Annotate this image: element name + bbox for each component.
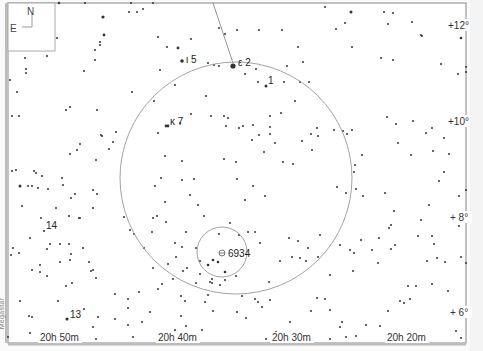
star bbox=[114, 293, 116, 295]
star bbox=[201, 329, 203, 331]
star bbox=[316, 127, 318, 129]
star bbox=[69, 259, 71, 261]
star bbox=[245, 317, 247, 319]
star bbox=[47, 188, 49, 190]
star bbox=[317, 256, 319, 258]
star bbox=[129, 229, 131, 231]
star bbox=[130, 2, 132, 4]
star bbox=[355, 335, 357, 337]
star bbox=[289, 321, 291, 323]
star bbox=[360, 239, 362, 241]
star bbox=[335, 28, 337, 30]
star bbox=[59, 261, 61, 263]
star bbox=[465, 71, 467, 73]
star bbox=[458, 195, 460, 197]
star bbox=[460, 256, 462, 258]
star bbox=[138, 291, 140, 293]
star bbox=[281, 29, 283, 31]
star bbox=[132, 336, 134, 338]
star bbox=[71, 282, 73, 284]
star bbox=[417, 235, 419, 237]
star bbox=[269, 115, 271, 117]
star bbox=[280, 112, 282, 114]
star bbox=[185, 325, 187, 327]
star bbox=[336, 186, 338, 188]
star bbox=[353, 171, 355, 173]
star bbox=[341, 321, 343, 323]
star bbox=[136, 11, 138, 13]
star bbox=[432, 150, 434, 152]
star bbox=[16, 91, 18, 93]
star bbox=[354, 164, 356, 166]
star bbox=[379, 325, 381, 327]
star bbox=[35, 172, 37, 174]
star bbox=[167, 125, 170, 128]
star bbox=[307, 247, 309, 249]
star bbox=[203, 215, 205, 217]
star bbox=[108, 148, 110, 150]
star bbox=[236, 178, 238, 180]
star bbox=[390, 248, 392, 250]
star bbox=[174, 84, 176, 86]
star bbox=[152, 217, 154, 219]
dec-label: +10° bbox=[448, 116, 469, 127]
star bbox=[99, 44, 101, 46]
star bbox=[181, 246, 183, 248]
star bbox=[114, 318, 116, 320]
star bbox=[292, 163, 294, 165]
ra-label: 20h 50m bbox=[40, 332, 79, 343]
star bbox=[184, 300, 186, 302]
star bbox=[409, 298, 411, 300]
star bbox=[324, 6, 326, 8]
star bbox=[101, 15, 104, 18]
star bbox=[29, 332, 31, 334]
star bbox=[297, 46, 299, 48]
star bbox=[128, 11, 130, 13]
star bbox=[251, 139, 253, 141]
star bbox=[84, 2, 86, 4]
star bbox=[386, 116, 388, 118]
star bbox=[371, 249, 373, 251]
star bbox=[212, 310, 214, 312]
star bbox=[257, 301, 259, 303]
star bbox=[428, 204, 430, 206]
star bbox=[24, 57, 26, 59]
star bbox=[254, 298, 256, 300]
star bbox=[224, 279, 226, 281]
star bbox=[199, 273, 201, 275]
star bbox=[74, 193, 76, 195]
star-chart: NE 20h 50m20h 40m20h 30m20h 20m+12°+10°+… bbox=[0, 0, 483, 351]
star bbox=[397, 142, 399, 144]
star bbox=[175, 256, 177, 258]
star bbox=[301, 140, 303, 142]
ra-label: 20h 30m bbox=[272, 332, 311, 343]
star bbox=[31, 185, 33, 187]
star bbox=[236, 311, 238, 313]
star bbox=[65, 285, 67, 287]
star bbox=[465, 262, 467, 264]
star bbox=[49, 243, 51, 245]
star bbox=[329, 274, 331, 276]
star bbox=[299, 257, 301, 259]
star bbox=[225, 125, 227, 127]
star bbox=[68, 215, 70, 217]
star bbox=[31, 269, 33, 271]
credit-label: Megastar bbox=[0, 298, 5, 330]
star bbox=[395, 123, 397, 125]
star bbox=[18, 252, 20, 254]
star bbox=[182, 270, 184, 272]
star bbox=[19, 300, 21, 302]
star bbox=[65, 317, 68, 320]
star bbox=[425, 132, 427, 134]
star bbox=[185, 231, 187, 233]
star bbox=[211, 278, 213, 280]
star bbox=[159, 69, 161, 71]
star bbox=[46, 55, 48, 57]
star bbox=[55, 207, 57, 209]
star bbox=[235, 161, 237, 163]
star bbox=[407, 285, 409, 287]
star bbox=[224, 271, 227, 274]
star bbox=[174, 242, 176, 244]
star bbox=[15, 169, 17, 171]
star bbox=[115, 131, 117, 133]
